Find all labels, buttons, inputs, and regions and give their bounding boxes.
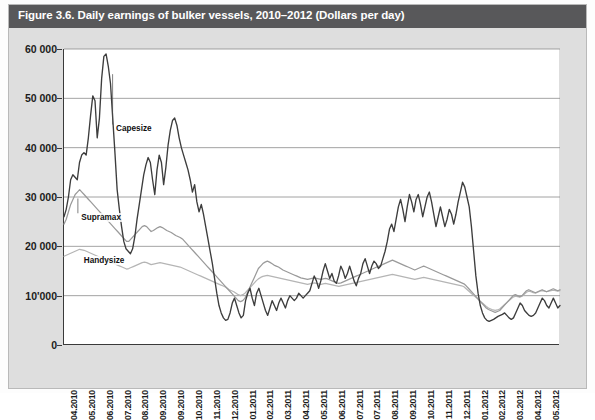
y-axis-tick-label: 60 000 — [5, 43, 57, 55]
figure-panel: Figure 3.6. Daily earnings of bulker ves… — [8, 4, 587, 389]
series-label-supramax: Supramax — [80, 213, 122, 222]
x-axis-tick-label: 02.2011 — [265, 390, 275, 420]
x-axis-tick-label: 04.2010 — [69, 390, 79, 420]
x-axis: 04.201005.201006.201007.201008.201009.20… — [63, 348, 559, 392]
x-axis-tick-label: 10.2010 — [194, 390, 204, 420]
y-axis-tick-mark — [57, 296, 62, 297]
y-axis-tick-label: 50 000 — [5, 92, 57, 104]
x-axis-tick-label: 03.2011 — [283, 390, 293, 420]
x-axis-tick-label: 11.2011 — [444, 390, 454, 419]
annotation-leaders — [64, 49, 560, 345]
x-axis-tick-label: 09.2010 — [176, 390, 186, 420]
x-axis-tick-label: 01.2011 — [248, 390, 258, 420]
x-axis-tick-label: 09.2010 — [158, 390, 168, 420]
x-axis-tick-label: 06.2011 — [337, 390, 347, 420]
x-axis-tick-label: 05.2010 — [87, 390, 97, 420]
x-axis-tick-label: 11.2010 — [212, 390, 222, 420]
x-axis-tick-label: 04.2011 — [301, 390, 311, 420]
figure-title-bar: Figure 3.6. Daily earnings of bulker ves… — [9, 5, 586, 28]
x-axis-tick-label: 10.2011 — [426, 390, 436, 420]
y-axis-tick-label: 40 000 — [5, 142, 57, 154]
x-axis-tick-label: 01.2012 — [480, 390, 490, 420]
x-axis-tick-label: 09.2011 — [408, 390, 418, 420]
x-axis-tick-label: 06.2010 — [105, 390, 115, 420]
x-axis-tick-label: 07.2011 — [372, 390, 382, 420]
x-axis-tick-label: 12.2010 — [230, 390, 240, 420]
x-axis-tick-label: 02.2012 — [497, 390, 507, 420]
y-axis: 010'00020 00030 00040 00050 00060 000 — [3, 49, 57, 345]
y-axis-tick-mark — [57, 148, 62, 149]
x-axis-tick-label: 08.2010 — [140, 390, 150, 420]
x-axis-tick-label: 05.2011 — [319, 390, 329, 420]
x-axis-tick-label: 07.2011 — [355, 390, 365, 420]
y-axis-tick-mark — [57, 345, 62, 346]
series-label-handysize: Handysize — [83, 256, 126, 265]
series-label-capesize: Capesize — [115, 124, 153, 133]
x-axis-tick-label: 12.2011 — [462, 390, 472, 420]
x-axis-tick-label: 07.2010 — [123, 390, 133, 420]
y-axis-tick-mark — [57, 98, 62, 99]
y-axis-tick-label: 20 000 — [5, 240, 57, 252]
y-axis-tick-mark — [57, 246, 62, 247]
y-axis-tick-mark — [57, 197, 62, 198]
x-axis-tick-label: 08.2011 — [390, 390, 400, 420]
plot-area — [63, 49, 559, 345]
y-axis-tick-label: 10'000 — [5, 290, 57, 302]
x-axis-tick-label: 03.2012 — [515, 390, 525, 420]
x-axis-tick-label: 05.2012 — [551, 390, 561, 420]
y-axis-tick-mark — [57, 49, 62, 50]
y-axis-tick-label: 30 000 — [5, 191, 57, 203]
y-axis-tick-label: 0 — [5, 339, 57, 351]
plot-wrapper: CapesizeSupramaxHandysize — [63, 49, 559, 345]
figure-title: Figure 3.6. Daily earnings of bulker ves… — [18, 9, 404, 21]
x-axis-tick-label: 04.2012 — [533, 390, 543, 420]
